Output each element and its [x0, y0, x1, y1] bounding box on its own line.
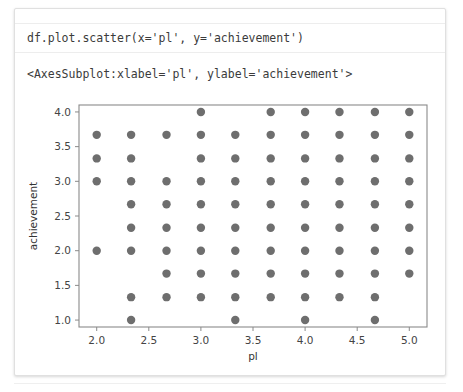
y-axis-tick-label: 3.0 — [54, 175, 71, 187]
scatter-point — [197, 131, 205, 139]
scatter-point — [267, 131, 275, 139]
scatter-point — [371, 246, 379, 254]
scatter-point — [301, 200, 309, 208]
scatter-point — [371, 200, 379, 208]
scatter-point — [405, 177, 413, 185]
scatter-point — [93, 131, 101, 139]
scatter-point — [267, 200, 275, 208]
y-axis-tick-label: 2.5 — [54, 210, 71, 222]
scatter-point — [93, 177, 101, 185]
scatter-point — [405, 108, 413, 116]
x-axis-label: pl — [248, 350, 258, 362]
scatter-point — [197, 224, 205, 232]
scatter-point — [301, 154, 309, 162]
scatter-point — [231, 246, 239, 254]
scatter-point — [371, 154, 379, 162]
scatter-point — [267, 293, 275, 301]
scatter-point — [231, 224, 239, 232]
scatter-point — [301, 108, 309, 116]
scatter-point — [301, 224, 309, 232]
scatter-point — [335, 108, 343, 116]
y-axis-tick-label: 1.5 — [54, 279, 71, 291]
scatter-point — [127, 224, 135, 232]
scatter-point — [162, 177, 170, 185]
scatter-point — [231, 154, 239, 162]
scatter-point — [267, 246, 275, 254]
code-input-text: df.plot.scatter(x='pl', y='achievement') — [15, 31, 304, 45]
scatter-point — [197, 108, 205, 116]
scatter-point — [335, 154, 343, 162]
scatter-point — [335, 224, 343, 232]
x-axis-tick-label: 2.0 — [88, 334, 105, 346]
scatter-point — [371, 131, 379, 139]
scatter-point — [127, 131, 135, 139]
scatter-point — [162, 200, 170, 208]
scatter-point — [267, 177, 275, 185]
scatter-point — [335, 293, 343, 301]
notebook-screenshot: df.plot.scatter(x='pl', y='achievement')… — [0, 0, 463, 392]
scatter-point — [301, 293, 309, 301]
scatter-point — [405, 200, 413, 208]
y-axis-label: achievement — [27, 182, 39, 250]
scatter-point — [335, 131, 343, 139]
scatter-point — [127, 200, 135, 208]
cell-output-repr: <AxesSubplot:xlabel='pl', ylabel='achiev… — [15, 61, 445, 87]
x-axis-tick-label: 3.5 — [245, 334, 262, 346]
scatter-point — [197, 200, 205, 208]
scatter-point — [335, 246, 343, 254]
scatter-point — [197, 154, 205, 162]
scatter-point — [197, 293, 205, 301]
scatter-point — [371, 108, 379, 116]
scatter-point — [162, 131, 170, 139]
scatter-point — [162, 269, 170, 277]
scatter-plot-svg: 2.02.53.03.54.04.55.01.01.52.02.53.03.54… — [23, 91, 437, 363]
scatter-point — [93, 154, 101, 162]
scatter-plot-output: 2.02.53.03.54.04.55.01.01.52.02.53.03.54… — [23, 91, 437, 363]
card-bottom-divider — [14, 383, 446, 384]
scatter-point — [93, 246, 101, 254]
scatter-point — [335, 177, 343, 185]
scatter-point — [127, 177, 135, 185]
scatter-point — [267, 154, 275, 162]
scatter-point — [231, 293, 239, 301]
cell-output-text: <AxesSubplot:xlabel='pl', ylabel='achiev… — [15, 67, 352, 81]
scatter-point — [405, 154, 413, 162]
scatter-point — [231, 316, 239, 324]
y-axis-tick-label: 2.0 — [54, 244, 71, 256]
y-axis-tick-label: 1.0 — [54, 314, 71, 326]
scatter-point — [162, 224, 170, 232]
scatter-point — [335, 200, 343, 208]
scatter-point — [231, 200, 239, 208]
scatter-point — [301, 316, 309, 324]
scatter-point — [231, 269, 239, 277]
scatter-point — [405, 246, 413, 254]
scatter-point — [267, 224, 275, 232]
scatter-point — [231, 131, 239, 139]
scatter-point — [127, 154, 135, 162]
scatter-point — [197, 177, 205, 185]
x-axis-tick-label: 2.5 — [140, 334, 157, 346]
scatter-point — [127, 246, 135, 254]
scatter-point — [301, 269, 309, 277]
scatter-point — [301, 246, 309, 254]
x-axis-tick-label: 5.0 — [401, 334, 418, 346]
scatter-point — [267, 269, 275, 277]
notebook-cell-card: df.plot.scatter(x='pl', y='achievement')… — [14, 8, 446, 376]
y-axis-tick-label: 3.5 — [54, 140, 71, 152]
scatter-point — [301, 131, 309, 139]
x-axis-tick-label: 3.0 — [193, 334, 210, 346]
scatter-point — [405, 131, 413, 139]
scatter-point — [371, 293, 379, 301]
x-axis-tick-label: 4.5 — [349, 334, 366, 346]
scatter-point — [371, 177, 379, 185]
y-axis-tick-label: 4.0 — [54, 106, 71, 118]
scatter-point — [162, 246, 170, 254]
scatter-point — [127, 316, 135, 324]
scatter-point — [231, 177, 239, 185]
scatter-point — [162, 293, 170, 301]
scatter-point — [371, 269, 379, 277]
code-input-cell[interactable]: df.plot.scatter(x='pl', y='achievement') — [15, 23, 445, 53]
scatter-point — [267, 108, 275, 116]
scatter-point — [405, 224, 413, 232]
scatter-point — [335, 269, 343, 277]
